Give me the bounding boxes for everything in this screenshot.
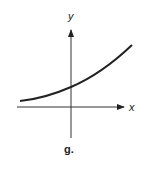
x-axis-label: x — [128, 101, 135, 113]
graph-figure: y x g. — [0, 0, 145, 187]
figure-caption: g. — [64, 143, 74, 155]
function-curve — [20, 45, 132, 101]
y-axis-label: y — [67, 10, 75, 22]
